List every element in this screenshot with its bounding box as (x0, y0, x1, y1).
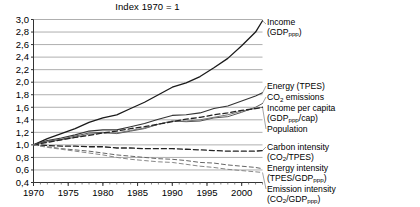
series-label-energy-intensity: Energy intensity (TPES/GDPppp) (267, 164, 328, 183)
series-label-ipc-line2: (GDPppp/cap) (267, 114, 335, 124)
series-label-co2-line1: CO2 emissions (267, 93, 324, 103)
series-label-energy-line1: Energy (TPES) (267, 82, 325, 92)
chart-plot-area: 0,40,60,81,01,21,41,61,82,02,22,42,62,83… (0, 0, 420, 207)
series-label-population: Population (267, 125, 308, 135)
series-label-income: Income (GDPppp) (267, 18, 302, 37)
x-tick-label: 1990 (162, 187, 183, 198)
y-tick-label: 1,8 (16, 89, 29, 100)
series-label-co2-emissions: CO2 emissions (267, 93, 324, 103)
y-tick-label: 2,6 (16, 39, 29, 50)
series-label-income-line2: (GDPppp) (267, 28, 302, 38)
y-tick-label: 1,4 (16, 114, 29, 125)
x-tick-label: 1985 (127, 187, 148, 198)
series-label-population-line1: Population (267, 125, 308, 135)
series-label-carbon-line2: (CO2/TPES) (267, 153, 329, 163)
leader-line-carbon_intensity (263, 147, 267, 151)
x-tick-label: 1975 (58, 187, 79, 198)
leader-line-income (263, 21, 267, 24)
leader-line-co2_emissions (263, 97, 267, 104)
x-tick-label: 2000 (231, 187, 252, 198)
x-tick-label: 1980 (92, 187, 113, 198)
series-line-population (34, 107, 263, 145)
y-tick-label: 0,8 (16, 152, 29, 163)
leader-line-emission_intensity (263, 172, 267, 189)
y-tick-label: 2,2 (16, 64, 29, 75)
y-tick-label: 2,4 (16, 51, 29, 62)
x-tick-label: 1970 (23, 187, 44, 198)
series-label-emission-intensity: Emission intensity (CO2/GDPppp) (267, 185, 336, 204)
leader-line-energy_tpes (263, 86, 267, 93)
series-label-carbon-intensity: Carbon intensity (CO2/TPES) (267, 143, 329, 162)
y-tick-label: 0,6 (16, 164, 29, 175)
leader-line-population (263, 107, 267, 129)
series-label-income-per-capita: Income per capita (GDPppp/cap) (267, 104, 335, 123)
y-tick-label: 2,8 (16, 26, 29, 37)
y-tick-label: 1,2 (16, 127, 29, 138)
y-tick-label: 1,6 (16, 102, 29, 113)
y-tick-label: 1,0 (16, 139, 29, 150)
x-tick-label: 1995 (196, 187, 217, 198)
y-tick-label: 2,0 (16, 76, 29, 87)
chart-figure: Index 1970 = 1 0,40,60,81,01,21,41,61,82… (0, 0, 420, 207)
series-label-enint-line2: (TPES/GDPppp) (267, 174, 328, 184)
series-label-energy: Energy (TPES) (267, 82, 325, 92)
series-label-emint-line2: (CO2/GDPppp) (267, 195, 336, 205)
y-tick-label: 3,0 (16, 14, 29, 25)
